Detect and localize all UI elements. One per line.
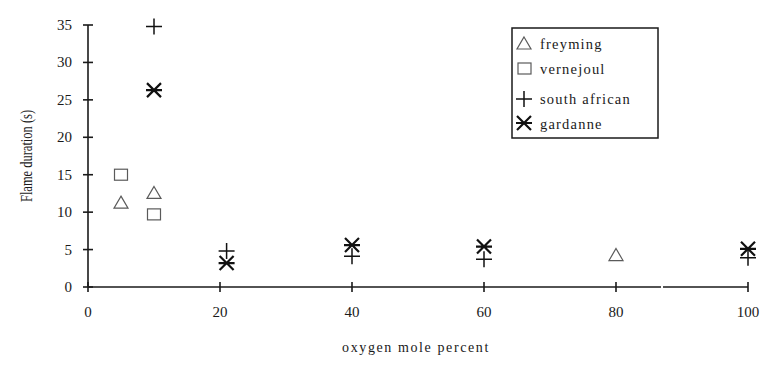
triangle-marker — [609, 249, 623, 261]
y-tick-label: 30 — [57, 54, 72, 70]
plus-marker — [740, 250, 756, 266]
x-tick-label: 0 — [84, 304, 92, 320]
legend-item-vernejoul: vernejoul — [518, 61, 606, 77]
x-axis-title: oxygen mole percent — [342, 340, 490, 355]
y-tick-label: 35 — [57, 17, 72, 33]
series-freyming — [114, 186, 623, 260]
legend-label: freyming — [540, 36, 603, 52]
y-tick-label: 5 — [65, 242, 73, 258]
plus-marker — [146, 18, 162, 34]
legend: freyming vernejoul south african gardann… — [512, 28, 658, 138]
series-south-african — [146, 18, 756, 267]
y-tick-label: 10 — [57, 204, 72, 220]
scatter-chart: 05101520253035 020406080100 oxygen mole … — [0, 0, 775, 368]
triangle-marker — [147, 186, 161, 198]
y-tick-label: 25 — [57, 92, 72, 108]
square-marker — [115, 169, 128, 180]
x-tick-label: 40 — [345, 304, 360, 320]
x-tick-label: 20 — [213, 304, 228, 320]
y-axis-title: Flame duration (s) — [18, 110, 37, 202]
asterisk-marker — [146, 83, 162, 97]
series-gardanne — [146, 83, 756, 270]
y-tick-label: 0 — [65, 279, 73, 295]
x-tick-label: 100 — [737, 304, 760, 320]
square-marker — [148, 209, 161, 220]
legend-label: south african — [540, 91, 631, 107]
y-tick-label: 20 — [57, 129, 72, 145]
legend-label: vernejoul — [540, 61, 606, 77]
x-tick-label: 80 — [609, 304, 624, 320]
legend-label: gardanne — [540, 116, 603, 132]
triangle-marker — [114, 196, 128, 208]
x-tick-label: 60 — [477, 304, 492, 320]
plot-area — [114, 18, 756, 270]
series-vernejoul — [115, 169, 161, 220]
y-tick-label: 15 — [57, 167, 72, 183]
